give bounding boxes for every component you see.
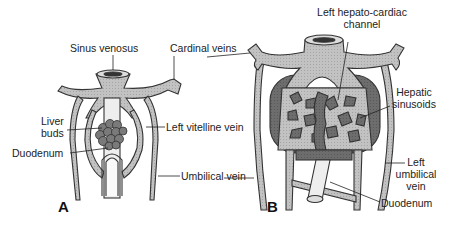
embryo-diagram xyxy=(0,0,450,229)
label-left-umb-line3: vein xyxy=(388,180,444,192)
label-hepatic-sinusoids: Hepatic sinusoids xyxy=(384,86,444,110)
label-liver-buds-line2: buds xyxy=(41,127,64,139)
panel-b-drawing xyxy=(248,35,404,210)
label-umbilical-vein: Umbilical vein xyxy=(181,170,246,182)
label-duodenum-a: Duodenum xyxy=(12,147,63,159)
label-left-umbilical-vein: Left umbilical vein xyxy=(388,156,444,192)
label-hepato-line2: channel xyxy=(312,18,412,30)
vitelline-vein-a-right xyxy=(122,110,143,178)
label-left-vitelline-vein: Left vitelline vein xyxy=(166,121,244,133)
label-sinus-venosus: Sinus venosus xyxy=(70,42,138,54)
label-left-hepato-cardiac-channel: Left hepato-cardiac channel xyxy=(312,6,412,30)
umbilical-vein-b-right xyxy=(254,58,267,210)
umbilical-vein-a-right xyxy=(144,96,158,200)
label-liver-buds-line1: Liver xyxy=(41,115,64,127)
label-hepato-line1: Left hepato-cardiac xyxy=(312,6,412,18)
panel-letter-a: A xyxy=(58,198,69,215)
label-hepatic-line2: sinusoids xyxy=(384,98,444,110)
label-cardinal-veins: Cardinal veins xyxy=(170,42,237,54)
label-hepatic-line1: Hepatic xyxy=(384,86,444,98)
label-left-umb-line2: umbilical xyxy=(388,168,444,180)
umbilical-vein-a-left xyxy=(70,96,83,200)
label-duodenum-b: Duodenum xyxy=(381,197,432,209)
label-liver-buds: Liver buds xyxy=(41,115,64,139)
label-left-umb-line1: Left xyxy=(388,156,444,168)
panel-letter-b: B xyxy=(267,198,278,215)
panel-a-drawing xyxy=(58,70,181,200)
liver-buds xyxy=(96,120,128,151)
